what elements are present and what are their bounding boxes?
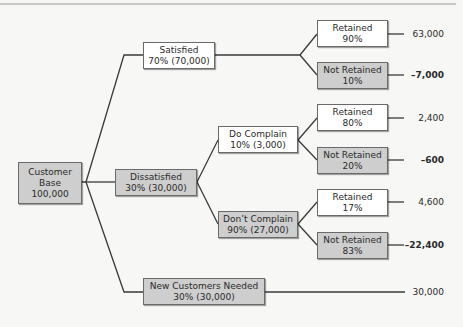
node-label: Customer (28, 167, 72, 178)
do-complain-node: Do Complain 10% (3,000) (218, 126, 298, 153)
outcome-value: –600 (394, 155, 444, 166)
satisfied-not-retained-node: Not Retained 10% (317, 62, 388, 89)
node-label: Do Complain (229, 129, 287, 140)
customer-base-node: Customer Base 100,000 (18, 162, 82, 204)
complain-retained-node: Retained 80% (317, 104, 388, 131)
outcome-value: 63,000 (394, 29, 444, 40)
node-label: Base (39, 178, 61, 189)
node-detail: 70% (70,000) (148, 56, 209, 67)
outcome-value: –7,000 (394, 70, 444, 81)
node-pct: 80% (342, 118, 362, 129)
node-label: Satisfied (160, 45, 199, 56)
node-detail: 10% (3,000) (230, 140, 286, 151)
complain-not-retained-node: Not Retained 20% (317, 147, 388, 174)
node-label: Retained (333, 23, 373, 34)
node-pct: 20% (342, 161, 362, 172)
node-pct: 83% (342, 246, 362, 257)
node-pct: 17% (342, 203, 362, 214)
node-label: Retained (333, 107, 373, 118)
node-detail: 90% (27,000) (227, 225, 288, 236)
outcome-value: 4,600 (394, 197, 444, 208)
satisfied-retained-node: Retained 90% (317, 20, 388, 47)
dissatisfied-node: Dissatisfied 30% (30,000) (115, 169, 197, 196)
node-label: Not Retained (323, 65, 382, 76)
node-label: Not Retained (323, 150, 382, 161)
outcome-value: –22,400 (394, 240, 444, 251)
node-label: New Customers Needed (150, 281, 259, 292)
node-detail: 30% (30,000) (173, 292, 234, 303)
node-label: Dissatisfied (130, 172, 182, 183)
outcome-value: 2,400 (394, 113, 444, 124)
node-pct: 10% (342, 76, 362, 87)
no-complain-retained-node: Retained 17% (317, 189, 388, 216)
node-pct: 90% (342, 34, 362, 45)
no-complain-not-retained-node: Not Retained 83% (317, 232, 388, 259)
satisfied-node: Satisfied 70% (70,000) (143, 42, 215, 69)
node-label: Don’t Complain (223, 214, 293, 225)
dont-complain-node: Don’t Complain 90% (27,000) (218, 211, 298, 238)
new-customers-node: New Customers Needed 30% (30,000) (143, 278, 265, 305)
node-label: Not Retained (323, 235, 382, 246)
node-label: Retained (333, 192, 373, 203)
node-value: 100,000 (31, 189, 68, 200)
outcome-value: 30,000 (394, 287, 444, 298)
node-detail: 30% (30,000) (125, 183, 186, 194)
